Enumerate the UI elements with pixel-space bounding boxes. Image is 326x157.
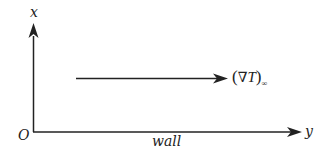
temperature-variable: T — [247, 69, 255, 85]
temperature-gradient-label: (∇T)∞ — [232, 68, 267, 85]
nabla-symbol: ∇ — [238, 70, 248, 85]
diagram-canvas: x y O wall (∇T)∞ — [0, 0, 326, 157]
wall-label: wall — [152, 134, 181, 148]
x-axis-label: x — [30, 5, 38, 19]
x-axis-arrowhead-icon — [29, 23, 39, 38]
y-axis-label: y — [305, 124, 313, 138]
infinity-subscript: ∞ — [261, 79, 267, 88]
origin-label: O — [18, 128, 29, 142]
